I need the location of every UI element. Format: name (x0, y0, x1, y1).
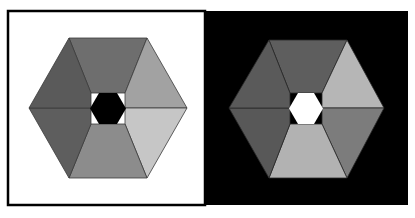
right-panel (205, 11, 408, 205)
left-panel (8, 11, 205, 205)
hexagon-illusion-figure (0, 0, 415, 218)
